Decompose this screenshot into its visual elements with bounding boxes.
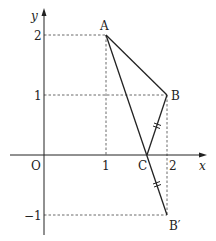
y-tick-1: 1	[34, 89, 42, 103]
segment-AC-extended	[106, 35, 167, 215]
x-axis-label: x	[199, 159, 206, 173]
y-tick-2: 2	[34, 29, 42, 43]
origin-label: O	[31, 159, 41, 173]
segment-BC	[147, 95, 167, 155]
y-axis-arrow-icon	[42, 8, 47, 16]
coordinate-diagram: y x O 1 2 2 1 −1 A B C B′	[0, 0, 216, 241]
x-tick-1: 1	[102, 159, 110, 173]
segments	[106, 35, 167, 215]
point-Bprime-label: B′	[169, 219, 181, 233]
x-axis-arrow-icon	[199, 153, 207, 158]
x-tick-2: 2	[169, 159, 177, 173]
y-tick-neg1: −1	[24, 209, 42, 223]
guide-lines	[44, 35, 167, 215]
point-B-label: B	[171, 89, 180, 103]
point-C-label: C	[138, 159, 147, 173]
point-A-label: A	[99, 19, 109, 33]
segment-AB	[106, 35, 167, 95]
axes	[10, 12, 203, 235]
y-axis-label: y	[30, 9, 38, 23]
